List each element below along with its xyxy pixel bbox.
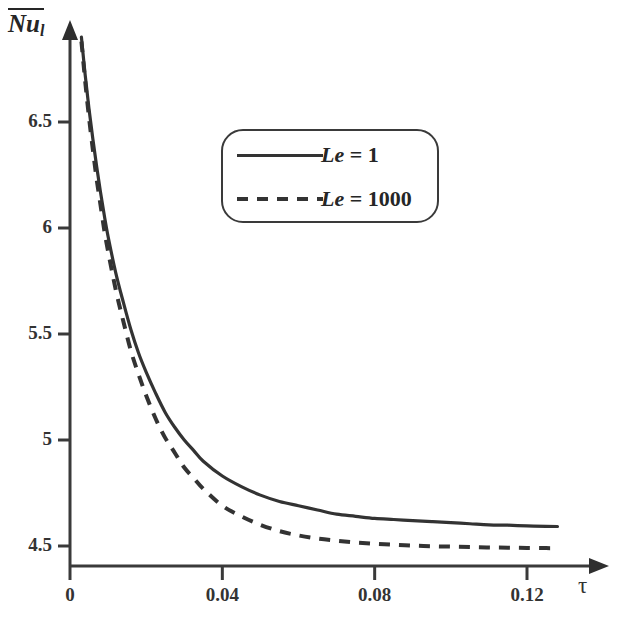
legend-symbol-1: Le <box>321 186 344 211</box>
y-tick-label: 4.5 <box>7 534 52 556</box>
x-tick-label: 0.08 <box>335 584 415 606</box>
legend-swatch-dashed <box>237 192 323 206</box>
axes-group <box>62 20 609 574</box>
legend-swatch-solid <box>237 148 323 162</box>
y-axis-title: Nul <box>8 8 44 40</box>
series-lines <box>81 37 557 548</box>
legend-eq-0: = <box>344 142 368 167</box>
y-tick-label: 6.5 <box>7 110 52 132</box>
y-axis-title-subscript: l <box>40 22 44 39</box>
series-line-le-1000 <box>81 41 557 548</box>
y-tick-marks <box>58 122 70 546</box>
x-axis-title: τ <box>578 573 587 599</box>
chart-legend: Le = 1 Le = 1000 <box>221 129 439 223</box>
legend-value-0: 1 <box>368 142 379 167</box>
y-tick-label: 6 <box>7 216 52 238</box>
legend-eq-1: = <box>344 186 368 211</box>
plot-canvas <box>0 0 621 621</box>
y-tick-label: 5 <box>7 428 52 450</box>
legend-symbol-0: Le <box>321 142 344 167</box>
y-tick-label: 5.5 <box>7 322 52 344</box>
legend-value-1: 1000 <box>368 186 412 211</box>
x-tick-label: 0.12 <box>487 584 567 606</box>
x-tick-label: 0 <box>30 584 110 606</box>
x-tick-label: 0.04 <box>182 584 262 606</box>
legend-label-le-1000: Le = 1000 <box>321 186 412 212</box>
x-axis-arrowhead <box>589 558 609 574</box>
legend-item-le-1: Le = 1 <box>223 131 437 178</box>
y-axis-title-base: Nu <box>8 10 40 37</box>
y-axis-arrowhead <box>62 20 78 40</box>
legend-item-le-1000: Le = 1000 <box>223 175 437 222</box>
series-line-le-1 <box>81 37 557 526</box>
legend-label-le-1: Le = 1 <box>321 142 379 168</box>
x-tick-marks <box>70 566 527 580</box>
chart-figure: Nul τ 4.555.566.500.040.080.12 Le = 1 Le… <box>0 0 621 621</box>
